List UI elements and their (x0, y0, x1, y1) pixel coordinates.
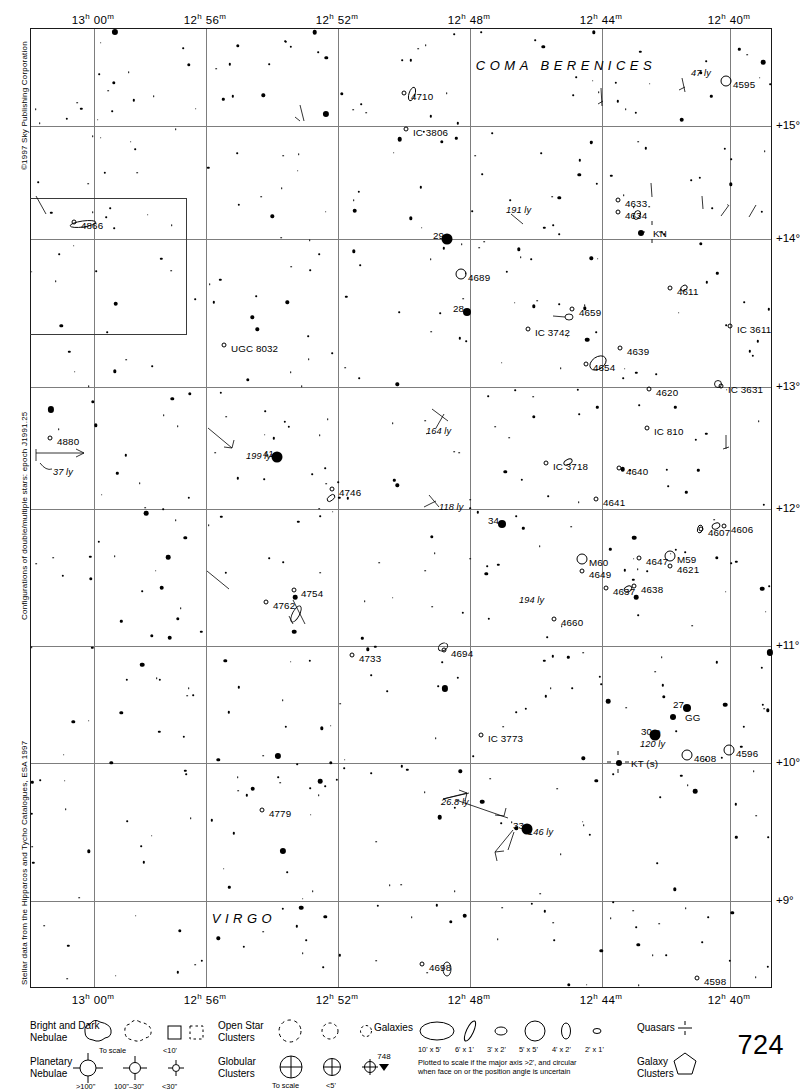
ra-tick-label: 13h 00m (72, 992, 115, 1006)
legend-pn-size-2: <30" (162, 1082, 177, 1091)
dec-tick-label: +15° (776, 119, 800, 131)
legend-gc-to-scale-note: To scale (272, 1081, 299, 1090)
legend-pn-size-0: >100" (76, 1082, 95, 1091)
ra-tick-label: 12h 44m (580, 12, 623, 26)
legend-planetary-nebulae-label: Planetary Nebulae (30, 1056, 72, 1079)
legend-nebulae-to-scale-note: To scale (99, 1046, 126, 1055)
dec-tick-label: +9° (776, 894, 794, 906)
legend-open-clusters-label: Open Star Clusters (218, 1020, 264, 1043)
ra-tick-label: 12h 56m (184, 12, 227, 26)
copyright-notice: ©1997 Sky Publishing Corporation (20, 41, 29, 170)
ra-tick-label: 12h 40m (708, 12, 751, 26)
ra-tick-label: 12h 56m (184, 992, 227, 1006)
legend-galaxies-label: Galaxies (374, 1022, 413, 1034)
legend-galaxy-size-4: 4' x 2' (552, 1045, 571, 1054)
legend-galaxy-clusters-label: Galaxy Clusters (637, 1056, 674, 1079)
ra-tick-label: 12h 48m (448, 12, 491, 26)
ra-tick-label: 12h 40m (708, 992, 751, 1006)
page-number: 724 (737, 1030, 784, 1061)
sky-map[interactable]: 4710IC 380647 ly4595191 ly46334634KN2948… (30, 28, 772, 988)
constellation-name: VIRGO (212, 911, 276, 926)
dec-tick-label: +12° (776, 502, 800, 514)
ra-tick-label: 12h 52m (316, 992, 359, 1006)
legend-quasars-label: Quasars (637, 1022, 675, 1034)
legend-galaxy-size-3: 5' x 5' (519, 1045, 538, 1054)
dec-tick-label: +10° (776, 756, 800, 768)
legend-galaxy-size-2: 3' x 2' (487, 1045, 506, 1054)
legend-galaxy-size-0: 10' x 5' (418, 1045, 441, 1054)
ra-tick-label: 12h 48m (448, 992, 491, 1006)
legend-galaxies-note: Plotted to scale if the major axis >2', … (418, 1058, 577, 1076)
dec-tick-label: +13° (776, 380, 800, 392)
ra-tick-label: 12h 52m (316, 12, 359, 26)
ra-tick-label: 13h 00m (72, 12, 115, 26)
dec-tick-label: +11° (776, 639, 799, 651)
legend-bright-dark-nebulae-label: Bright and Dark Nebulae (30, 1020, 99, 1043)
dec-tick-label: +14° (776, 232, 800, 244)
ra-tick-label: 12h 44m (580, 992, 623, 1006)
legend-globular-clusters-label: Globular Clusters (218, 1056, 256, 1079)
legend-gc-small-note: <5' (326, 1081, 336, 1090)
legend-nebulae-small-note: <10' (163, 1046, 177, 1055)
legend-pn-size-1: 100"–30" (114, 1082, 144, 1091)
continuation-arrow-icon (379, 1064, 389, 1071)
double-star-epoch-credit: Configurations of double/multiple stars:… (20, 412, 29, 620)
stellar-data-credit: Stellar data from the Hipparcos and Tych… (20, 741, 29, 985)
constellation-name: COMA BERENICES (476, 58, 656, 73)
legend-galaxy-size-1: 6' x 1' (455, 1045, 474, 1054)
legend-galaxy-size-5: 2' x 1' (585, 1045, 604, 1054)
continuation-page-number: 748 (372, 1052, 396, 1061)
legend-panel: Bright and Dark Nebulae To scale <10' Pl… (0, 1006, 802, 1088)
